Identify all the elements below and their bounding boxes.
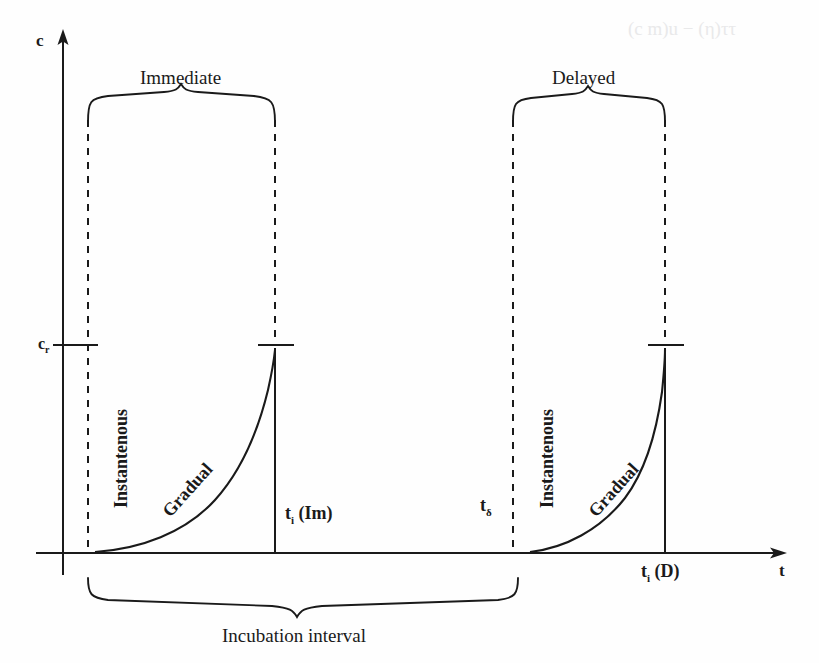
delayed-brace — [513, 86, 665, 122]
cr-tick-label: cr — [38, 336, 50, 355]
immediate-peak-suffix: (Im) — [294, 503, 333, 523]
cr-subscript: r — [45, 344, 49, 355]
delayed-group-title: Delayed — [552, 68, 615, 87]
delayed-instantaneous-label: Instantenous — [538, 409, 556, 508]
delay-onset-label: tδ — [480, 496, 492, 518]
immediate-group-title: Immediate — [140, 68, 221, 87]
delayed-peak-suffix: (D) — [650, 561, 680, 581]
immediate-instantaneous-label: Instantenous — [112, 409, 130, 508]
immediate-brace — [88, 84, 275, 122]
x-axis-label: t — [779, 562, 785, 579]
incubation-interval-label: Incubation interval — [222, 626, 366, 645]
incubation-interval-brace — [88, 578, 518, 617]
concentration-time-diagram: (c m)u − (η)ττ — [0, 0, 819, 663]
axis-lines — [36, 36, 780, 575]
y-axis-label: c — [36, 32, 44, 49]
immediate-peak-time-label: ti (Im) — [285, 504, 333, 526]
diagram-line-art — [0, 0, 819, 663]
delay-onset-subscript: δ — [486, 506, 492, 518]
delayed-peak-time-label: ti (D) — [641, 562, 680, 584]
